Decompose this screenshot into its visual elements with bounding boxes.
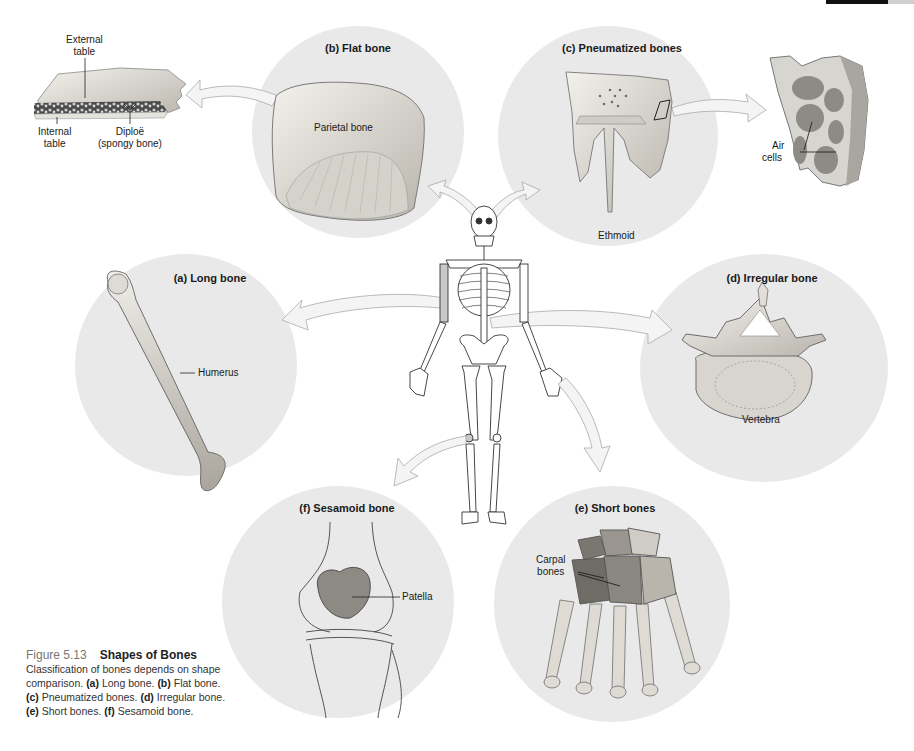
label-humerus: Humerus [198,367,239,378]
caption-key-d: (d) [140,691,153,703]
label-ethmoid: Ethmoid [598,230,635,241]
label-carpal-bones: Carpal bones [536,554,565,578]
label-patella: Patella [402,591,433,602]
label-external-table: External table [66,34,103,58]
panel-a-title: (a) Long bone [160,272,260,284]
label-diploe-line1: Diploë [98,126,162,138]
caption-text-b: Flat bone. [174,677,221,689]
vertebra-illustration [682,282,826,420]
illustrations [0,0,914,751]
knee-illustration [299,522,401,718]
caption-text-e: Short bones. [42,705,102,717]
arrow-to-sesamoid-bone [394,436,466,486]
caption-text-d: Irregular bone. [157,691,225,703]
caption-text-c: Pneumatized bones. [42,691,138,703]
panel-f-title: (f) Sesamoid bone [292,502,402,514]
caption-key-c: (c) [26,691,39,703]
label-external-line1: External [66,34,103,46]
caption-key-b: (b) [157,677,170,689]
skeleton-illustration [410,206,562,524]
label-carpal-line2: bones [536,566,565,578]
label-diploe: Diploë (spongy bone) [98,126,162,150]
label-internal-table: Internal table [38,126,71,150]
caption-key-f: (f) [104,705,115,717]
label-internal-line1: Internal [38,126,71,138]
arrow-to-irregular-bone [490,310,672,344]
arrow-to-long-bone [282,294,444,330]
panel-d-title: (d) Irregular bone [712,272,832,284]
label-external-line2: table [66,46,103,58]
air-cells-illustration [770,56,868,186]
arrow-to-section [186,80,278,108]
label-air-cells: Air cells [762,140,784,164]
ethmoid-illustration [566,72,672,212]
panel-b-title: (b) Flat bone [302,42,414,54]
label-vertebra: Vertebra [742,414,780,425]
figure-number: Figure 5.13 [26,648,87,662]
label-parietal-bone: Parietal bone [314,122,373,133]
caption-key-a: (a) [86,677,99,689]
label-diploe-line2: (spongy bone) [98,138,162,150]
caption-text-a: Long bone. [102,677,155,689]
figure-caption: Figure 5.13 Shapes of Bones Classificati… [26,648,236,718]
figure-title: Shapes of Bones [100,648,197,662]
label-carpal-line1: Carpal [536,554,565,566]
caption-key-e: (e) [26,705,39,717]
label-internal-line2: table [38,138,71,150]
parietal-bone-illustration [272,82,424,220]
hand-illustration [544,528,700,698]
panel-e-title: (e) Short bones [562,502,668,514]
label-air-line1: Air [762,140,784,152]
humerus-illustration [107,271,225,491]
caption-text-f: Sesamoid bone. [118,705,194,717]
arrow-to-air-cells [672,94,766,122]
panel-c-title: (c) Pneumatized bones [552,42,692,54]
patella-illustration [317,567,370,618]
flat-bone-section-illustration [34,58,186,124]
label-air-line2: cells [762,152,784,164]
arrow-to-short-bones [558,378,610,472]
